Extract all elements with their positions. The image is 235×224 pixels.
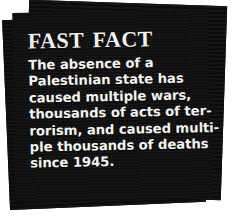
body-line: since 1945. [30, 153, 199, 173]
callout-body: The absence of a Palestinian state has c… [28, 54, 199, 172]
fast-fact-callout: Fast Fact The absence of a Palestinian s… [0, 0, 235, 224]
callout-panel-front: Fast Fact The absence of a Palestinian s… [12, 9, 212, 202]
callout-content: Fast Fact The absence of a Palestinian s… [12, 9, 212, 202]
callout-headline: Fast Fact [27, 19, 197, 53]
